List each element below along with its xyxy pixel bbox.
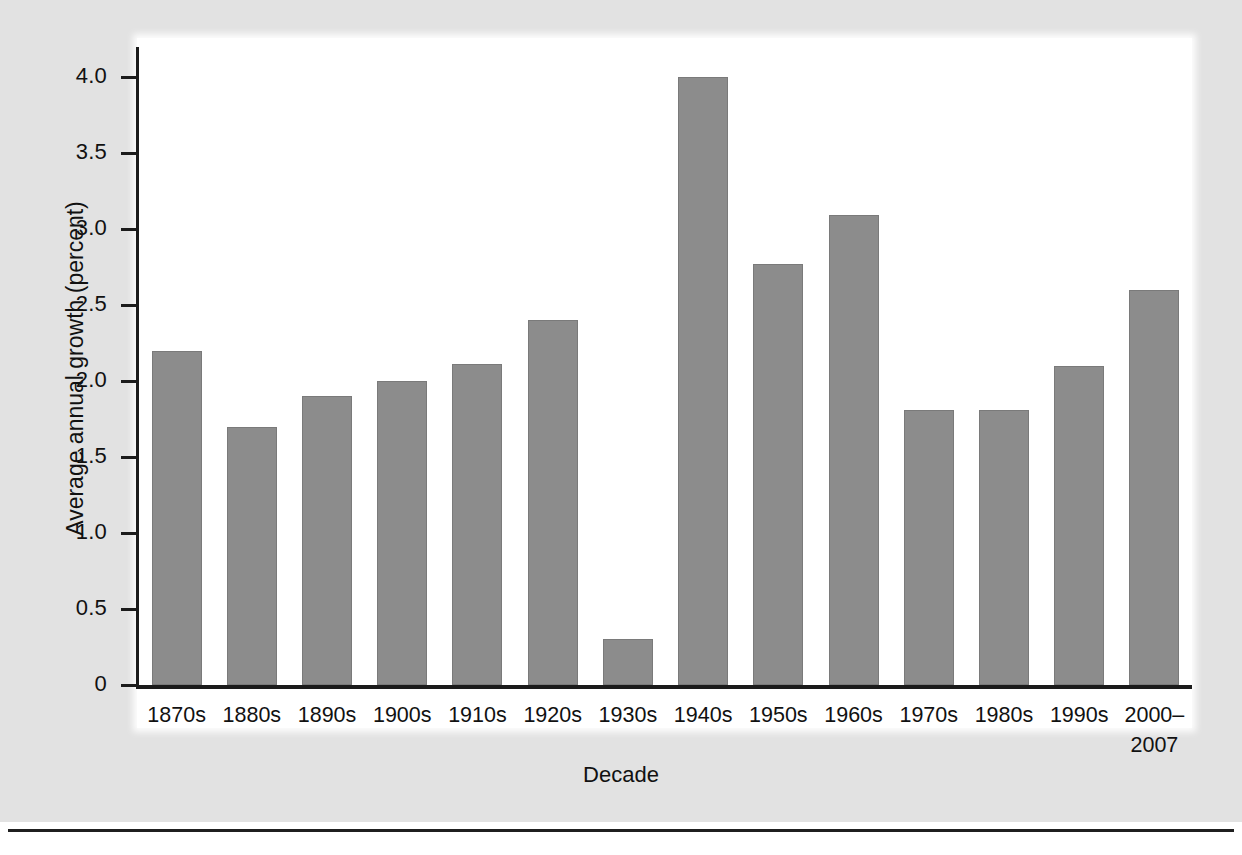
y-axis-tick bbox=[121, 228, 136, 231]
x-axis-tick-label: 2000–2007 bbox=[1104, 700, 1204, 760]
y-axis-tick bbox=[121, 532, 136, 535]
bar bbox=[1054, 366, 1104, 685]
x-axis-tick-label-line: 2000– bbox=[1104, 700, 1204, 730]
bar bbox=[1129, 290, 1179, 685]
x-axis-title: Decade bbox=[0, 762, 1242, 788]
bar bbox=[979, 410, 1029, 685]
footer-rule bbox=[8, 829, 1234, 832]
y-axis-tick-label: 4.0 bbox=[37, 63, 107, 89]
bar bbox=[528, 320, 578, 685]
y-axis-tick bbox=[121, 304, 136, 307]
bars-layer bbox=[139, 77, 1192, 685]
y-axis-tick bbox=[121, 608, 136, 611]
bar bbox=[152, 351, 202, 685]
x-axis-line bbox=[136, 685, 1192, 689]
bar bbox=[753, 264, 803, 685]
y-axis-tick bbox=[121, 684, 136, 687]
bar bbox=[227, 427, 277, 685]
bar bbox=[452, 364, 502, 685]
y-axis-tick bbox=[121, 456, 136, 459]
figure-panel: 00.51.01.52.02.53.03.54.0 Average annual… bbox=[0, 0, 1242, 822]
y-axis-tick bbox=[121, 152, 136, 155]
bar bbox=[678, 77, 728, 685]
bar bbox=[302, 396, 352, 685]
bar bbox=[904, 410, 954, 685]
bar bbox=[377, 381, 427, 685]
bar bbox=[829, 215, 879, 685]
x-axis-tick-label-line: 2007 bbox=[1104, 730, 1204, 760]
bar bbox=[603, 639, 653, 685]
y-axis-tick bbox=[121, 76, 136, 79]
y-axis-title: Average annual growth (percent) bbox=[62, 89, 89, 649]
y-axis-tick-label: 0 bbox=[37, 671, 107, 697]
y-axis-tick bbox=[121, 380, 136, 383]
